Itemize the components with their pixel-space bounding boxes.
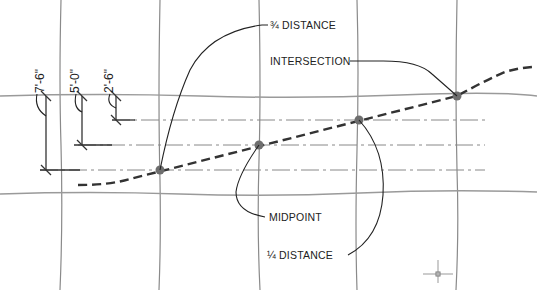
dimension-lines <box>36 91 135 175</box>
grid-line-v1 <box>60 0 62 290</box>
diagram-canvas: 7'-6" 5'-0" 2'-6" ¾ DISTANCE INTERSECTIO… <box>0 0 537 290</box>
label-midpoint: MIDPOINT <box>269 211 322 223</box>
grid-diagram: 7'-6" 5'-0" 2'-6" ¾ DISTANCE INTERSECTIO… <box>0 0 537 290</box>
dimension-2-6: 2'-6" <box>102 69 116 93</box>
dimension-5-0: 5'-0" <box>68 69 82 93</box>
leader-one-quarter <box>348 120 383 255</box>
dim-leader <box>109 94 116 108</box>
dim-leader <box>36 94 46 116</box>
dimension-7-6: 7'-6" <box>33 69 47 93</box>
points <box>156 92 462 175</box>
leader-intersection <box>350 61 457 96</box>
dashed-curve <box>78 67 532 185</box>
label-three-quarter-distance: ¾ DISTANCE <box>270 19 336 31</box>
label-one-quarter-distance: ¼ DISTANCE <box>267 249 333 261</box>
grid-line-h2 <box>0 191 537 196</box>
leader-midpoint <box>236 145 265 217</box>
crosshair-cursor-icon <box>423 260 453 283</box>
label-intersection: INTERSECTION <box>270 55 351 67</box>
dim-leader <box>75 94 82 112</box>
